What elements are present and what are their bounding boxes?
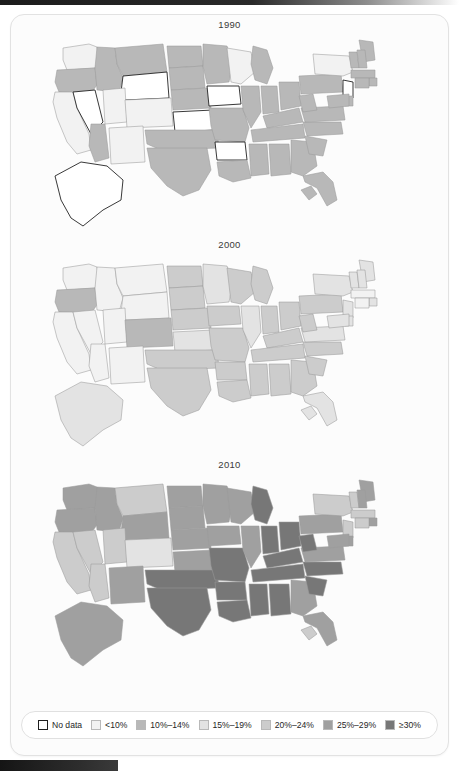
- state-az: AZ: 20%–24%: [89, 564, 109, 602]
- state-wi: WI: <10%: [227, 48, 255, 84]
- state-ar: AR: ≥30%: [215, 582, 247, 600]
- state-la: LA: ≥30%: [217, 600, 251, 622]
- legend-label-nodata: No data: [52, 720, 82, 730]
- panel-title-2010: 2010: [11, 455, 448, 470]
- state-hi: HI: 15%–19%: [301, 406, 317, 420]
- state-ny: NY: 15%–19%: [313, 274, 353, 296]
- state-ms: MS: 20%–24%: [249, 364, 269, 396]
- state-hi: HI: 10%–14%: [301, 186, 317, 200]
- figure-card: 1990 WA: <10%OR: 10%–14%CA: <10%NV: No d…: [10, 14, 449, 756]
- state-al: AL: 10%–14%: [269, 144, 291, 176]
- legend-swatch-b20_24: [261, 720, 271, 730]
- state-in: IN: 20%–24%: [261, 306, 279, 334]
- state-wy: WY: No data: [121, 72, 169, 100]
- state-tx: TX: 10%–14%: [147, 148, 211, 196]
- state-ma: MA: 20%–24%: [351, 510, 375, 518]
- state-az: AZ: 10%–14%: [89, 124, 109, 162]
- state-ct: CT: <10%: [355, 298, 369, 308]
- legend-item-b25_29: 25%–29%: [323, 720, 376, 730]
- state-mi: MI: ≥30%: [251, 486, 273, 524]
- state-ak: AK: No data: [55, 162, 123, 226]
- state-nh: NH: 10%–14%: [357, 50, 367, 68]
- choropleth-map-2000: WA: <10%OR: 10%–14%CA: <10%NV: <10%ID: <…: [11, 250, 448, 455]
- state-ri: RI: 15%–19%: [369, 298, 377, 306]
- state-ne: NE: 10%–14%: [171, 88, 211, 110]
- state-pa: PA: 25%–29%: [299, 514, 343, 534]
- legend-item-ge30: ≥30%: [385, 720, 421, 730]
- state-az: AZ: <10%: [89, 344, 109, 382]
- state-sd: SD: 25%–29%: [169, 506, 205, 530]
- state-in: IN: ≥30%: [261, 526, 279, 554]
- state-nc: NC: ≥30%: [303, 562, 343, 576]
- state-ms: MS: 10%–14%: [249, 144, 269, 176]
- state-nd: ND: 10%–14%: [167, 46, 203, 68]
- state-ar: AR: 20%–24%: [215, 362, 247, 380]
- state-ia: IA: No data: [207, 86, 241, 106]
- state-la: LA: 20%–24%: [217, 380, 251, 402]
- state-nm: NM: <10%: [109, 126, 145, 164]
- state-ok: OK: 20%–24%: [145, 350, 219, 370]
- legend-item-b20_24: 20%–24%: [261, 720, 314, 730]
- state-ak: AK: 25%–29%: [55, 602, 123, 666]
- state-pa: PA: 20%–24%: [299, 294, 343, 314]
- state-sd: SD: 20%–24%: [169, 286, 205, 310]
- state-ny: NY: 20%–24%: [313, 494, 353, 516]
- legend-swatch-b15_19: [199, 720, 209, 730]
- legend-label-b10_14: 10%–14%: [150, 720, 189, 730]
- map-legend: No data<10%10%–14%15%–19%20%–24%25%–29%≥…: [21, 711, 438, 739]
- legend-item-lt10: <10%: [91, 720, 127, 730]
- state-mt: MT: 10%–14%: [115, 44, 167, 76]
- legend-label-lt10: <10%: [105, 720, 127, 730]
- state-co: CO: <10%: [125, 98, 173, 128]
- state-wi: WI: 20%–24%: [227, 268, 255, 304]
- state-md: MD: 25%–29%: [327, 534, 349, 548]
- state-mt: MT: <10%: [115, 264, 167, 296]
- legend-item-b10_14: 10%–14%: [136, 720, 189, 730]
- state-md: MD: 15%–19%: [327, 314, 349, 328]
- state-or: OR: 10%–14%: [55, 288, 97, 313]
- state-nc: NC: 10%–14%: [303, 122, 343, 136]
- state-hi: HI: 20%–24%: [301, 626, 317, 640]
- legend-swatch-lt10: [91, 720, 101, 730]
- state-oh: OH: ≥30%: [279, 522, 301, 550]
- map-panel-1990: 1990 WA: <10%OR: 10%–14%CA: <10%NV: No d…: [11, 15, 448, 235]
- state-wa: WA: <10%: [63, 264, 99, 290]
- state-ri: RI: 25%–29%: [369, 518, 377, 526]
- state-ok: OK: 10%–14%: [145, 130, 219, 150]
- state-ks: KS: 25%–29%: [173, 550, 215, 572]
- state-ak: AK: 15%–19%: [55, 382, 123, 446]
- state-ut: UT: <10%: [103, 88, 127, 124]
- state-mo: MO: ≥30%: [209, 548, 249, 582]
- state-nh: NH: 25%–29%: [357, 490, 367, 508]
- state-mt: MT: 20%–24%: [115, 484, 167, 516]
- state-ar: AR: No data: [215, 142, 247, 160]
- panel-title-2000: 2000: [11, 235, 448, 250]
- state-ok: OK: ≥30%: [145, 570, 219, 590]
- usa-map-svg-2010: WA: 25%–29%OR: 25%–29%CA: 20%–24%NV: 20%…: [11, 470, 448, 675]
- map-panel-2010: 2010 WA: 25%–29%OR: 25%–29%CA: 20%–24%NV…: [11, 455, 448, 675]
- state-nh: NH: 15%–19%: [357, 270, 367, 288]
- state-al: AL: 20%–24%: [269, 364, 291, 396]
- state-ma: MA: <10%: [351, 290, 375, 298]
- state-tn: TN: 10%–14%: [251, 124, 305, 142]
- legend-swatch-b10_14: [136, 720, 146, 730]
- state-ia: IA: 25%–29%: [207, 526, 241, 546]
- state-or: OR: 10%–14%: [55, 68, 97, 93]
- legend-swatch-nodata: [38, 720, 48, 730]
- screen-bottom-chrome-bar: [0, 760, 118, 771]
- state-ut: UT: <10%: [103, 308, 127, 344]
- state-tn: TN: 20%–24%: [251, 344, 305, 362]
- state-la: LA: 10%–14%: [217, 160, 251, 182]
- choropleth-map-1990: WA: <10%OR: 10%–14%CA: <10%NV: No dataID…: [11, 30, 448, 235]
- legend-label-b15_19: 15%–19%: [213, 720, 252, 730]
- screen-top-chrome-bar: [0, 0, 459, 5]
- legend-label-b25_29: 25%–29%: [337, 720, 376, 730]
- state-ks: KS: No data: [173, 110, 215, 132]
- state-ks: KS: 15%–19%: [173, 330, 215, 352]
- state-ri: RI: 10%–14%: [369, 78, 377, 86]
- state-tx: TX: ≥30%: [147, 588, 211, 636]
- legend-label-b20_24: 20%–24%: [275, 720, 314, 730]
- panel-title-1990: 1990: [11, 15, 448, 30]
- state-sd: SD: 10%–14%: [169, 66, 205, 90]
- state-pa: PA: 10%–14%: [299, 74, 343, 94]
